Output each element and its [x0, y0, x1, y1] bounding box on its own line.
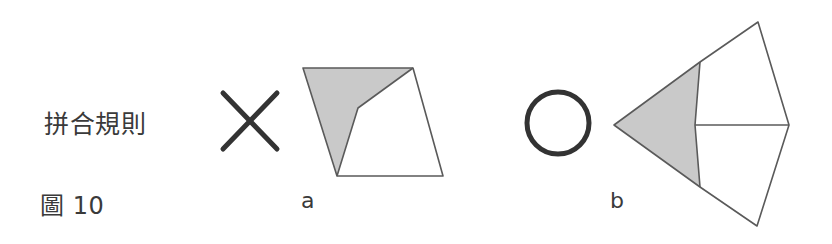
figure-canvas: 拼合規則 圖 10 a b [0, 0, 832, 244]
shape-b-white-region-upper [695, 22, 789, 125]
assembly-rule-caption: 拼合規則 [44, 104, 146, 140]
shape-b-group [614, 22, 789, 226]
figure-number-caption: 圖 10 [40, 186, 104, 221]
circle-mark-icon [527, 92, 589, 154]
x-mark-icon [223, 93, 277, 149]
shape-b-shaded-region [614, 62, 700, 187]
shape-a-group [303, 68, 443, 176]
panel-letter-a: a [301, 188, 314, 213]
panel-letter-b: b [610, 188, 624, 213]
shape-b-white-region-lower [695, 125, 789, 226]
